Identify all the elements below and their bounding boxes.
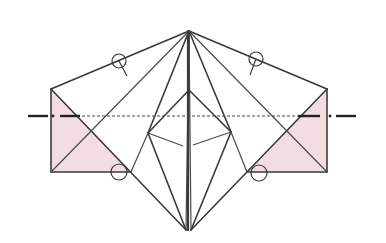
circle-marker-top-right bbox=[249, 52, 263, 75]
origami-diagram bbox=[0, 0, 386, 243]
circle-marker-top-left bbox=[112, 54, 127, 76]
valley-fold-line bbox=[28, 115, 356, 118]
